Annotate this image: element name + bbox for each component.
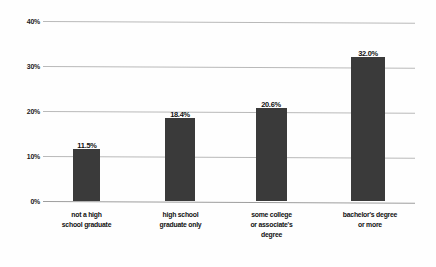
x-axis-label-not-a-high-school-graduate: not a high school graduate [44,210,130,230]
gridline-0 [43,201,415,204]
x-axis-label-bachelors-degree-or-more: bachelor's degree or more [325,210,415,230]
bar-value-label-4: 32.0% [343,49,393,58]
bar-some-college-or-associates[interactable] [256,108,287,201]
y-tick-label-0: 0% [9,197,40,206]
plot-area [43,21,415,201]
bar-value-label-2: 18.4% [155,110,205,119]
x-axis-label-line: some college [229,210,315,220]
y-tick-label-20: 20% [9,107,40,116]
x-axis-label-high-school-graduate-only: high school graduate only [138,210,224,230]
x-axis-label-some-college-or-associates-degree: some college or associate's degree [229,210,315,240]
y-tick-label-10: 10% [9,152,40,161]
x-axis-label-line: high school [138,210,224,220]
x-axis-label-line: or associate's [229,220,315,230]
bar-not-a-high-school-graduate[interactable] [73,149,100,201]
x-axis-label-line: bachelor's degree [325,210,415,220]
bar-chart: 40% 30% 20% 10% 0% 11.5% 18.4% 20.6% 32.… [0,0,436,267]
y-tick-label-40: 40% [9,17,40,26]
gridline-40 [43,21,415,24]
y-tick-label-30: 30% [9,62,40,71]
y-axis: 40% 30% 20% 10% 0% [0,21,40,201]
bar-high-school-graduate-only[interactable] [165,118,195,201]
bar-value-label-3: 20.6% [246,100,296,109]
x-axis-label-line: degree [229,230,315,240]
x-axis-label-line: or more [325,220,415,230]
x-axis-label-line: school graduate [44,220,130,230]
x-axis-label-line: graduate only [138,220,224,230]
bar-value-label-1: 11.5% [62,141,112,150]
bar-bachelors-degree-or-more[interactable] [351,57,385,201]
x-axis-label-line: not a high [44,210,130,220]
